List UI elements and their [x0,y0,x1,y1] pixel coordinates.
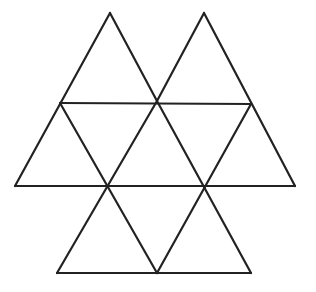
segment-diag-a [60,103,157,273]
segment-top-left-apex-right-side [110,13,157,101]
segment-top-right-apex-left-side [157,13,204,101]
segment-top-left-apex-left-side [15,13,110,186]
triangle-figure [0,0,316,292]
segment-top-right-apex-right-side [204,13,295,186]
